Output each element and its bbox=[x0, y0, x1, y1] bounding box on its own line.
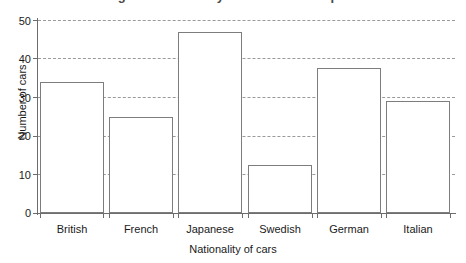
y-tick-label-10: 10 bbox=[3, 170, 31, 181]
x-tick-mark-4 bbox=[178, 213, 179, 218]
x-tick-mark-11 bbox=[450, 213, 451, 218]
x-tick-label-swedish: Swedish bbox=[248, 224, 312, 235]
bar-swedish bbox=[248, 165, 312, 213]
bar-french bbox=[109, 117, 173, 214]
bar-german bbox=[317, 68, 381, 213]
x-tick-mark-10 bbox=[386, 213, 387, 218]
x-tick-mark-3 bbox=[173, 213, 174, 218]
x-tick-mark-0 bbox=[40, 213, 41, 218]
x-tick-label-german: German bbox=[317, 224, 381, 235]
y-tick-label-0: 0 bbox=[3, 208, 31, 219]
gridline-50 bbox=[38, 20, 455, 21]
x-tick-label-french: French bbox=[109, 224, 173, 235]
x-tick-label-japanese: Japanese bbox=[178, 224, 242, 235]
clipped-chart-title: Bar chart showing the nationality of car… bbox=[0, 0, 466, 4]
x-axis-line bbox=[37, 213, 456, 214]
x-tick-mark-2 bbox=[109, 213, 110, 218]
x-tick-mark-8 bbox=[317, 213, 318, 218]
x-axis-title: Nationality of cars bbox=[0, 243, 466, 255]
x-tick-label-italian: Italian bbox=[386, 224, 450, 235]
bar-italian bbox=[386, 101, 450, 213]
x-tick-mark-6 bbox=[248, 213, 249, 218]
x-tick-mark-9 bbox=[381, 213, 382, 218]
plot-area bbox=[38, 20, 455, 213]
bar-japanese bbox=[178, 32, 242, 213]
gridline-40 bbox=[38, 58, 455, 59]
bar-chart: Bar chart showing the nationality of car… bbox=[0, 0, 466, 263]
x-tick-mark-5 bbox=[242, 213, 243, 218]
x-tick-label-british: British bbox=[40, 224, 104, 235]
y-tick-label-50: 50 bbox=[3, 16, 31, 27]
x-tick-mark-1 bbox=[103, 213, 104, 218]
bar-british bbox=[40, 82, 104, 213]
x-tick-mark-7 bbox=[312, 213, 313, 218]
y-axis-title: Number of cars bbox=[16, 47, 28, 157]
